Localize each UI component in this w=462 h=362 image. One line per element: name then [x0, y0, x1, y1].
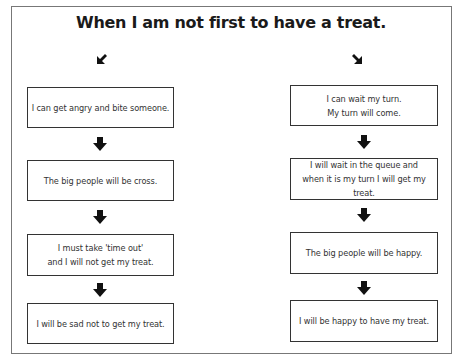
down-arrow-icon	[93, 283, 107, 297]
down-arrow-icon	[93, 137, 107, 151]
left-step-2-text: The big people will be cross.	[44, 174, 157, 188]
left-step-3: I must take 'time out' and I will not ge…	[27, 234, 174, 276]
down-arrow-icon	[357, 281, 371, 295]
right-step-3-text: The big people will be happy.	[306, 246, 422, 260]
right-step-4: I will be happy to have my treat.	[290, 300, 438, 342]
down-arrow-icon	[357, 208, 371, 222]
right-step-2: I will wait in the queue and when it is …	[290, 158, 438, 200]
diagonal-down-right-arrow-icon	[350, 52, 364, 66]
right-step-4-text: I will be happy to have my treat.	[299, 314, 429, 328]
left-step-4: I will be sad not to get my treat.	[27, 303, 174, 344]
diagram-title: When I am not first to have a treat.	[0, 13, 462, 32]
left-step-1-text: I can get angry and bite someone.	[32, 101, 170, 115]
right-step-1: I can wait my turn. My turn will come.	[290, 85, 438, 126]
right-step-1-text: I can wait my turn. My turn will come.	[326, 92, 401, 120]
left-step-1: I can get angry and bite someone.	[27, 87, 174, 128]
right-step-3: The big people will be happy.	[290, 232, 438, 274]
down-arrow-icon	[93, 210, 107, 224]
left-step-4-text: I will be sad not to get my treat.	[36, 317, 164, 331]
left-step-2: The big people will be cross.	[27, 160, 174, 201]
diagonal-down-left-arrow-icon	[95, 52, 109, 66]
right-step-2-text: I will wait in the queue and when it is …	[293, 158, 435, 200]
down-arrow-icon	[357, 135, 371, 149]
left-step-3-text: I must take 'time out' and I will not ge…	[47, 241, 153, 269]
